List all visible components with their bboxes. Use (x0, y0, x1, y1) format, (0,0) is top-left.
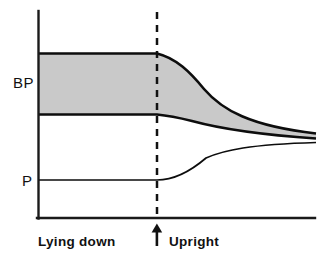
phase-label-upright: Upright (169, 234, 219, 249)
phase-label-lying-down: Lying down (38, 234, 116, 249)
plot-area: BP P Lying down Upright (0, 0, 322, 260)
pulse-curve (39, 143, 316, 181)
pulse-axis-label: P (22, 172, 32, 189)
orthostatic-bp-pulse-figure: BP P Lying down Upright (0, 0, 322, 260)
bp-axis-label: BP (13, 74, 34, 91)
up-arrow-icon (152, 224, 163, 247)
